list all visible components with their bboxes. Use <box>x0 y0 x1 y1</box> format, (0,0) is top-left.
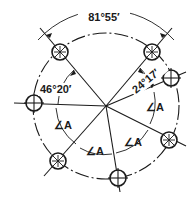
hole-bottom <box>108 168 128 188</box>
hole-top-left <box>52 44 68 60</box>
equal-angle-label-bottom: ∠A <box>86 145 104 157</box>
bolt-circle-diagram: 81°55′ 46°20′ 24°17′ ∠A ∠A ∠A ∠A <box>0 0 196 201</box>
dimension-label-right: 24°17′ <box>130 66 162 96</box>
equal-angle-label-bottom-right: ∠A <box>124 136 142 148</box>
equal-angle-label-right: ∠A <box>146 101 164 113</box>
hole-bottom-left <box>50 153 66 169</box>
hole-top-right <box>144 44 160 60</box>
equal-angle-label-left: ∠A <box>54 119 72 131</box>
dimension-label-top: 81°55′ <box>88 11 120 23</box>
hole-right-lower <box>161 132 177 148</box>
dimension-label-left: 46°20′ <box>40 83 72 95</box>
